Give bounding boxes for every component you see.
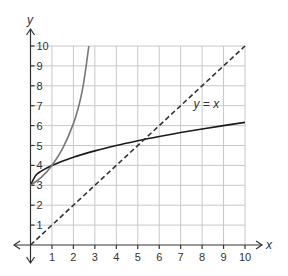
- y-tick-label: 7: [37, 100, 43, 112]
- x-tick-label: 1: [49, 251, 55, 263]
- y-tick-label: 8: [37, 80, 43, 92]
- chart: 1234567891012345678910 x y y = x: [0, 0, 288, 276]
- y-tick-label: 1: [37, 219, 43, 231]
- x-tick-label: 7: [178, 251, 184, 263]
- y-tick-label: 5: [37, 140, 43, 152]
- y-tick-label: 2: [37, 199, 43, 211]
- x-tick-label: 6: [156, 251, 162, 263]
- y-tick-label: 6: [37, 120, 43, 132]
- x-tick-label: 3: [92, 251, 98, 263]
- y-tick-label: 10: [37, 40, 49, 52]
- x-tick-label: 10: [239, 251, 251, 263]
- y-axis-label: y: [26, 13, 34, 27]
- y-tick-label: 9: [37, 60, 43, 72]
- x-tick-label: 2: [70, 251, 76, 263]
- y-tick-label: 4: [37, 159, 43, 171]
- x-axis-label: x: [265, 238, 273, 252]
- x-tick-label: 9: [220, 251, 226, 263]
- annotation-y-equals-x: y = x: [193, 97, 221, 111]
- x-tick-label: 8: [199, 251, 205, 263]
- x-tick-label: 4: [113, 251, 119, 263]
- tick-labels: 1234567891012345678910: [31, 40, 252, 263]
- x-tick-label: 5: [135, 251, 141, 263]
